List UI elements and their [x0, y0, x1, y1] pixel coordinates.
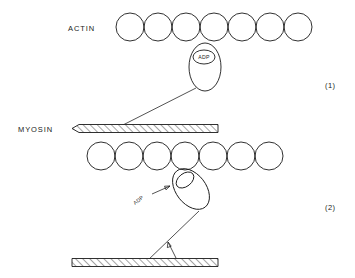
panel2-actin-filament [87, 142, 283, 170]
actin-monomer [172, 13, 200, 41]
panel2-adp-label: ADP [132, 194, 145, 206]
panel1-actin-filament [116, 13, 312, 41]
actin-monomer [227, 142, 255, 170]
myosin-label: MYOSIN [18, 125, 53, 134]
panel2-pointer-arrow [167, 242, 176, 258]
actin-monomer [256, 13, 284, 41]
panel2-adp-release-group: ADP [132, 186, 170, 206]
actin-monomer [200, 13, 228, 41]
panel-1-group: ACTIN ADP MYOSIN [18, 13, 335, 134]
actin-monomer [199, 142, 227, 170]
actin-monomer [116, 13, 144, 41]
panel-2-group: ADP (2) [72, 142, 335, 267]
actin-monomer [255, 142, 283, 170]
actin-monomer [143, 142, 171, 170]
actin-monomer [228, 13, 256, 41]
actin-monomer [284, 13, 312, 41]
panel2-s2-neck [146, 211, 199, 262]
actin-monomer [144, 13, 172, 41]
panel-1-number: (1) [325, 81, 335, 90]
panel2-adp-pocket-empty [173, 169, 197, 192]
actin-monomer [115, 142, 143, 170]
panel1-s2-neck [117, 88, 196, 128]
panel1-myosin-filament [72, 125, 218, 133]
panel2-myosin-filament [72, 259, 218, 267]
panel-2-number: (2) [325, 203, 335, 212]
diagram-canvas: ACTIN ADP MYOSIN [0, 0, 355, 278]
actin-label: ACTIN [68, 24, 95, 33]
actin-myosin-diagram: ACTIN ADP MYOSIN [0, 0, 355, 278]
actin-monomer [87, 142, 115, 170]
panel2-adp-arrow-head [165, 186, 171, 190]
panel1-adp-label: ADP [198, 54, 210, 60]
panel2-adp-arrow-shaft [152, 186, 170, 194]
panel2-pointer-shaft [168, 242, 176, 258]
actin-monomer [171, 142, 199, 170]
